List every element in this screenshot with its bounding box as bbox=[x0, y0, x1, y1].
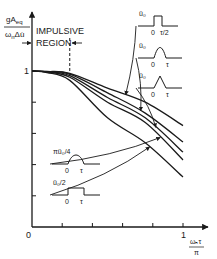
svg-text:π: π bbox=[194, 249, 199, 256]
pulse-shape-4 bbox=[52, 188, 100, 195]
pointer-arrow-1 bbox=[136, 58, 141, 111]
pulse-shape-0 bbox=[138, 16, 178, 26]
svg-text:ωₙτ: ωₙτ bbox=[190, 238, 201, 245]
pulse-time-label-2: τ bbox=[166, 91, 169, 98]
pulse-amp-label-0: ü₀ bbox=[139, 10, 146, 17]
pulse-amp-label-4: ü₀/2 bbox=[53, 179, 66, 186]
pulse-time-label-1: τ bbox=[166, 61, 169, 68]
svg-text:gAeq: gAeq bbox=[6, 15, 22, 25]
pulse-zero-label-3: 0 bbox=[65, 167, 69, 174]
x-tick-label-1: 1 bbox=[181, 230, 186, 240]
pulse-time-label-3: τ bbox=[80, 167, 83, 174]
pulse-shape-1 bbox=[138, 48, 182, 59]
pulse-inset-2: ü₀0τ bbox=[136, 72, 182, 127]
y-axis-label: gAeq ωnΔu̇ bbox=[4, 15, 30, 40]
impulsive-region-label-line2: REGION bbox=[36, 38, 72, 48]
pulse-time-label-4: τ bbox=[80, 198, 83, 205]
pulse-zero-label-2: 0 bbox=[151, 91, 155, 98]
svg-text:ωnΔu̇: ωnΔu̇ bbox=[5, 30, 24, 40]
pulse-inset-0: ü₀0τ/2 bbox=[126, 10, 178, 95]
pulse-amp-label-1: ü₀ bbox=[139, 42, 146, 49]
pulse-inset-3: πü₀/40τ bbox=[50, 137, 160, 174]
pulse-time-label-0: τ/2 bbox=[160, 29, 169, 36]
x-origin-label: 0 bbox=[26, 230, 31, 240]
pulse-zero-label-0: 0 bbox=[151, 29, 155, 36]
pointer-arrow-0 bbox=[126, 26, 136, 95]
pulse-amp-label-2: ü₀ bbox=[139, 72, 146, 79]
y-tick-label-1: 1 bbox=[24, 66, 29, 76]
impulsive-region-label-line1: IMPULSIVE bbox=[36, 26, 84, 36]
pulse-amp-label-3: πü₀/4 bbox=[53, 148, 71, 155]
chart: gAeq ωnΔu̇ IMPULSIVE REGION 0 1 1 ωₙτ π … bbox=[0, 0, 217, 259]
series-curve-3 bbox=[32, 71, 183, 160]
x-axis-label: ωₙτ π bbox=[189, 238, 204, 256]
pulse-zero-label-1: 0 bbox=[151, 61, 155, 68]
pulse-zero-label-4: 0 bbox=[65, 198, 69, 205]
